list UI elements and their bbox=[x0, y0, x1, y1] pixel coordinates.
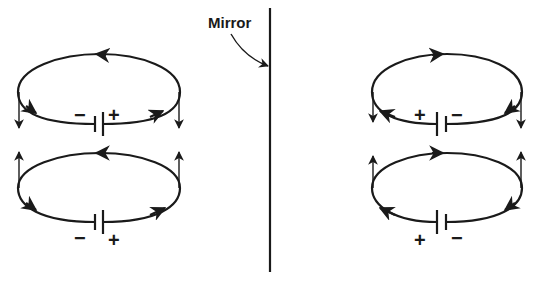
left-top-loop: − + bbox=[18, 54, 180, 136]
battery-left-sign: − bbox=[74, 227, 86, 249]
left-bottom-loop: − + bbox=[18, 152, 180, 251]
loop-wire bbox=[372, 54, 522, 124]
current-arrow-bottom-left bbox=[380, 208, 395, 215]
current-arrow-bottom-left bbox=[380, 111, 395, 117]
battery-right-sign: − bbox=[451, 227, 463, 249]
mirror-pointer-arrow bbox=[231, 34, 268, 66]
right-top-loop: + − bbox=[372, 54, 522, 136]
battery-left-sign: + bbox=[414, 229, 426, 251]
current-arrow-top bbox=[96, 54, 106, 55]
mirror-diagram: Mirror − + − + + − bbox=[0, 0, 537, 282]
right-bottom-loop: + − bbox=[372, 152, 522, 251]
loop-wire bbox=[372, 153, 522, 222]
battery-right-sign: − bbox=[451, 104, 463, 126]
battery-left-sign: + bbox=[414, 104, 426, 126]
battery-right-sign: + bbox=[108, 104, 120, 126]
mirror-label: Mirror bbox=[208, 14, 252, 31]
battery-left-sign: − bbox=[74, 104, 86, 126]
battery-right-sign: + bbox=[108, 229, 120, 251]
current-arrow-top bbox=[432, 54, 443, 55]
mirror: Mirror bbox=[208, 8, 270, 272]
